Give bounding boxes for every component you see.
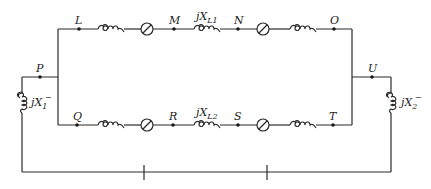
node-o <box>332 27 336 31</box>
node-n <box>236 27 240 31</box>
inductor-top-xl1 <box>194 24 220 32</box>
source-bottom-2 <box>257 119 269 131</box>
label-m: M <box>168 14 181 27</box>
label-r: R <box>168 110 177 123</box>
label-n: N <box>233 14 244 27</box>
node-p <box>38 75 42 79</box>
label-jx1: jX1 − <box>28 93 52 111</box>
source-top-2 <box>257 23 269 35</box>
label-o: O <box>330 14 339 27</box>
label-s: S <box>234 110 242 123</box>
label-q: Q <box>73 110 82 123</box>
label-l: L <box>74 14 82 27</box>
inductor-top-1 <box>98 25 124 33</box>
inductor-top-3 <box>290 24 316 32</box>
svg-text:jXL1: jXL1 <box>193 10 218 25</box>
node-q <box>75 123 79 127</box>
inductor-right-shunt <box>387 92 396 113</box>
node-l <box>77 27 81 31</box>
circuit-diagram: P U L M N O Q R S T jXL1 jXL2 jX1 − jX2 … <box>0 0 431 189</box>
svg-text:−: − <box>45 93 52 102</box>
node-t <box>331 123 335 127</box>
wires <box>22 29 391 180</box>
inductor-bottom-3 <box>290 121 316 129</box>
inductor-bottom-xl2 <box>194 121 220 129</box>
node-s <box>236 123 240 127</box>
inductor-left-shunt <box>18 92 27 113</box>
label-jxl2: jXL2 <box>193 106 218 121</box>
label-jx2: jX2 − <box>398 93 422 111</box>
inductor-bottom-1 <box>98 121 124 128</box>
node-m <box>172 27 176 31</box>
node-r <box>171 123 175 127</box>
label-u: U <box>368 62 378 75</box>
label-t: T <box>329 110 338 123</box>
source-top-1 <box>141 23 153 35</box>
label-p: P <box>35 62 44 75</box>
label-jxl1: jXL1 <box>193 10 218 25</box>
source-bottom-1 <box>141 119 153 131</box>
node-u <box>370 75 374 79</box>
svg-text:−: − <box>415 93 422 102</box>
svg-text:jXL2: jXL2 <box>193 106 218 121</box>
